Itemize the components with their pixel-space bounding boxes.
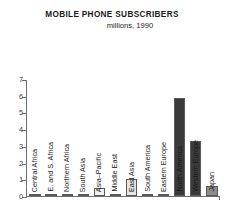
- bar-category-label: Northern Africa: [63, 144, 71, 192]
- bar: [78, 194, 89, 196]
- y-tick-label: 3: [19, 142, 23, 151]
- bar-slot: Asia–Pacific: [91, 80, 107, 196]
- bar-slot: Middle East: [107, 80, 123, 196]
- bars-layer: Central AfricaE. and S. AfricaNorthern A…: [27, 80, 220, 196]
- y-tick-label: 2: [19, 159, 23, 168]
- y-tick-label: 7: [19, 75, 23, 84]
- bar-slot: E. and S. Africa: [43, 80, 59, 196]
- bar-category-label: Eastern Europe: [160, 142, 168, 192]
- y-tick-label: 1: [19, 175, 23, 184]
- bar-slot: Northern Africa: [59, 80, 75, 196]
- y-tick-label: 0: [19, 192, 23, 201]
- y-tick-label: 4: [19, 125, 23, 134]
- bar-category-label: Japan: [208, 172, 216, 192]
- y-tick-label: 6: [19, 92, 23, 101]
- x-axis-end-tick: [219, 196, 220, 200]
- bar: [29, 194, 40, 196]
- bar-slot: Central Africa: [27, 80, 43, 196]
- bar-category-label: Central Africa: [31, 149, 39, 192]
- chart-subtitle: millions, 1990: [0, 21, 224, 31]
- bar-slot: East Asia: [123, 80, 139, 196]
- bar: [62, 194, 73, 196]
- chart-title-block: MOBILE PHONE SUBSCRIBERS millions, 1990: [0, 10, 224, 31]
- bar: [142, 194, 153, 196]
- bar-category-label: South America: [144, 145, 152, 192]
- bar: [45, 194, 56, 196]
- bar-slot: Japan: [204, 80, 220, 196]
- bar-category-label: South Asia: [79, 158, 87, 192]
- chart-title: MOBILE PHONE SUBSCRIBERS: [0, 10, 224, 20]
- bar-slot: Eastern Europe: [156, 80, 172, 196]
- bar-slot: Western Europe: [188, 80, 204, 196]
- bar-category-label: East Asia: [128, 162, 136, 192]
- bar-category-label: Western Europe: [192, 140, 200, 192]
- bar-category-label: Middle East: [111, 154, 119, 192]
- bar-category-label: Asia–Pacific: [95, 153, 103, 192]
- mobile-phone-subscribers-chart: MOBILE PHONE SUBSCRIBERS millions, 1990 …: [0, 0, 232, 212]
- y-tick-0: 0: [26, 197, 31, 198]
- bar-slot: North America: [172, 80, 188, 196]
- x-axis-line: [26, 196, 220, 197]
- bar: [110, 194, 121, 196]
- plot-area: 01234567 Central AfricaE. and S. AfricaN…: [26, 80, 220, 197]
- bar-category-label: North America: [176, 146, 184, 192]
- bar-slot: South America: [140, 80, 156, 196]
- bar-category-label: E. and S. Africa: [47, 142, 55, 192]
- y-tick-label: 5: [19, 108, 23, 117]
- bar: [158, 194, 169, 196]
- bar-slot: South Asia: [75, 80, 91, 196]
